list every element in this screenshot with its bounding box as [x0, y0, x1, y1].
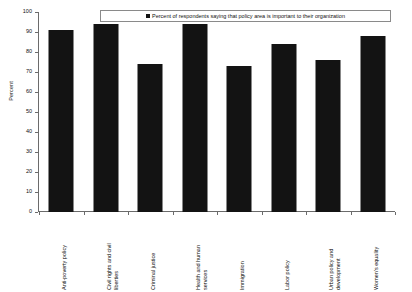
x-label-slot: Civil rights and civil liberties — [84, 216, 129, 292]
y-tick-mark — [35, 72, 38, 73]
bar-slot — [128, 12, 173, 212]
scan-artifact — [0, 286, 412, 291]
bar-chart: Percent 1009080706050403020100 Anti-pove… — [0, 0, 412, 292]
bar-slot — [173, 12, 218, 212]
y-tick-label: 80 — [26, 48, 32, 54]
bar-slot — [262, 12, 307, 212]
legend: Percent of respondents saying that polic… — [100, 10, 391, 22]
x-label-slot: Labor policy — [262, 216, 307, 292]
y-tick-label: 30 — [26, 148, 32, 154]
y-tick-label: 40 — [26, 128, 32, 134]
x-axis-label: Urban policy and development — [328, 216, 342, 290]
bar[interactable] — [316, 60, 341, 212]
x-tick-mark — [173, 212, 174, 215]
x-label-slot: Health and human services — [173, 216, 218, 292]
bar-slot — [84, 12, 129, 212]
y-tick-label: 50 — [26, 108, 32, 114]
bar-slot — [306, 12, 351, 212]
bar[interactable] — [49, 30, 74, 212]
bar-slot — [217, 12, 262, 212]
y-tick-mark — [35, 92, 38, 93]
legend-swatch-icon — [146, 14, 150, 18]
y-tick-label: 70 — [26, 68, 32, 74]
x-tick-mark — [395, 212, 396, 215]
bar[interactable] — [227, 66, 252, 212]
x-tick-mark — [128, 212, 129, 215]
x-label-slot: Women's equality — [351, 216, 396, 292]
bar-slot — [351, 12, 396, 212]
x-label-slot: Urban policy and development — [306, 216, 351, 292]
y-tick-mark — [35, 12, 38, 13]
bar[interactable] — [93, 24, 118, 212]
x-axis-label: Immigration — [239, 216, 246, 290]
y-tick-label: 90 — [26, 28, 32, 34]
y-tick-mark — [35, 212, 38, 213]
x-tick-mark — [39, 212, 40, 215]
bar[interactable] — [138, 64, 163, 212]
bar[interactable] — [360, 36, 385, 212]
x-label-slot: Criminal justice — [128, 216, 173, 292]
x-axis-label: Labor policy — [284, 216, 291, 290]
y-tick-mark — [35, 32, 38, 33]
x-tick-mark — [351, 212, 352, 215]
x-tick-mark — [84, 212, 85, 215]
y-tick-mark — [35, 52, 38, 53]
x-axis-labels: Anti-poverty policyCivil rights and civi… — [39, 216, 395, 292]
y-tick-label: 0 — [29, 208, 32, 214]
bar-slot — [39, 12, 84, 212]
x-tick-mark — [262, 212, 263, 215]
bar[interactable] — [271, 44, 296, 212]
x-label-slot: Anti-poverty policy — [39, 216, 84, 292]
x-axis-label: Civil rights and civil liberties — [106, 216, 120, 290]
y-tick-mark — [35, 152, 38, 153]
x-tick-mark — [217, 212, 218, 215]
legend-label: Percent of respondents saying that polic… — [152, 13, 345, 19]
y-tick-mark — [35, 192, 38, 193]
bars-layer — [39, 12, 395, 212]
y-tick-mark — [35, 132, 38, 133]
x-tick-mark — [306, 212, 307, 215]
x-axis-label: Anti-poverty policy — [61, 216, 68, 290]
x-axis-label: Women's equality — [373, 216, 380, 290]
x-axis-label: Criminal justice — [150, 216, 157, 290]
y-axis-title: Percent — [8, 61, 14, 121]
y-tick-label: 60 — [26, 88, 32, 94]
x-axis-label: Health and human services — [195, 216, 209, 290]
bar[interactable] — [182, 24, 207, 212]
y-tick-mark — [35, 172, 38, 173]
y-tick-label: 10 — [26, 188, 32, 194]
y-tick-label: 100 — [23, 8, 32, 14]
y-tick-label: 20 — [26, 168, 32, 174]
x-label-slot: Immigration — [217, 216, 262, 292]
y-tick-mark — [35, 112, 38, 113]
